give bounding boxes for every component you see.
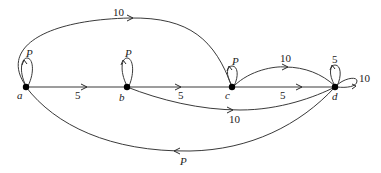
arrowhead-d-d-1 <box>330 65 335 70</box>
node-a <box>23 84 29 90</box>
edge-label-d-d-1: 5 <box>332 53 338 65</box>
edge-label-b-d: 10 <box>229 113 241 125</box>
node-label-a: a <box>17 89 23 101</box>
edge-label-c-d-arc: 10 <box>280 52 292 64</box>
edge-label-b-b: P <box>124 47 132 59</box>
edge-c-d-arc <box>234 67 335 86</box>
node-label-b: b <box>119 91 125 103</box>
graph-diagram: 10 P P P 5 10 5 5 5 10 10 P a b c d <box>0 0 381 173</box>
edge-label-c-c: P <box>231 55 239 67</box>
node-label-d: d <box>332 90 338 102</box>
node-label-c: c <box>225 89 230 101</box>
edge-c-c <box>227 66 237 86</box>
edge-label-c-d-straight: 5 <box>280 89 286 101</box>
edge-label-d-a: P <box>179 155 187 167</box>
edge-b-b <box>122 58 133 86</box>
edge-label-a-b: 5 <box>75 89 81 101</box>
arrowhead-b-b <box>121 60 126 65</box>
edge-label-b-c: 5 <box>178 89 184 101</box>
node-b <box>124 84 130 90</box>
edge-label-a-c: 10 <box>113 6 125 18</box>
edge-label-d-d-2: 10 <box>359 72 371 84</box>
edge-label-a-a: P <box>25 47 33 59</box>
edge-b-d <box>127 87 335 110</box>
